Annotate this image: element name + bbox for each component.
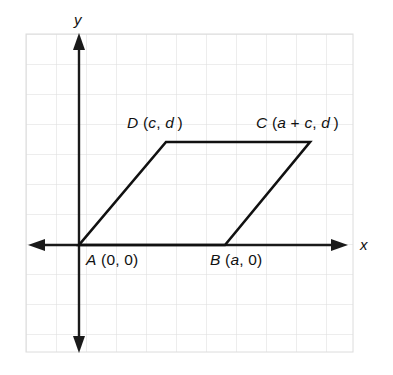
- vertex-label-D: D (c, d ): [127, 115, 183, 131]
- coordinate-plane-figure: D (c, d ) C (a + c, d ) A (0, 0) B (a, 0…: [0, 0, 393, 375]
- grid-lines: [26, 34, 353, 352]
- x-axis-label: x: [360, 237, 368, 252]
- parallelogram-diagram-svg: [0, 0, 393, 375]
- vertex-label-C: C (a + c, d ): [256, 115, 339, 131]
- vertex-label-A: A (0, 0): [86, 252, 138, 268]
- grid-area: [26, 34, 353, 352]
- vertex-label-B: B (a, 0): [210, 252, 262, 268]
- y-axis-label: y: [74, 12, 82, 27]
